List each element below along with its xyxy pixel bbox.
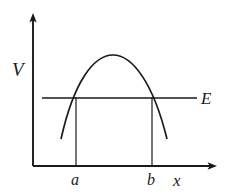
x-axis bbox=[33, 162, 217, 169]
figure-canvas bbox=[0, 0, 231, 196]
potential-barrier-curve bbox=[61, 55, 167, 139]
v-axis bbox=[29, 13, 36, 166]
energy-level-label: E bbox=[201, 90, 211, 107]
turning-point-a-label: a bbox=[71, 172, 79, 188]
potential-barrier-figure: V x E a b bbox=[0, 0, 231, 196]
v-axis-label: V bbox=[12, 60, 24, 79]
x-axis-label: x bbox=[173, 172, 181, 189]
turning-point-b-label: b bbox=[147, 172, 155, 188]
